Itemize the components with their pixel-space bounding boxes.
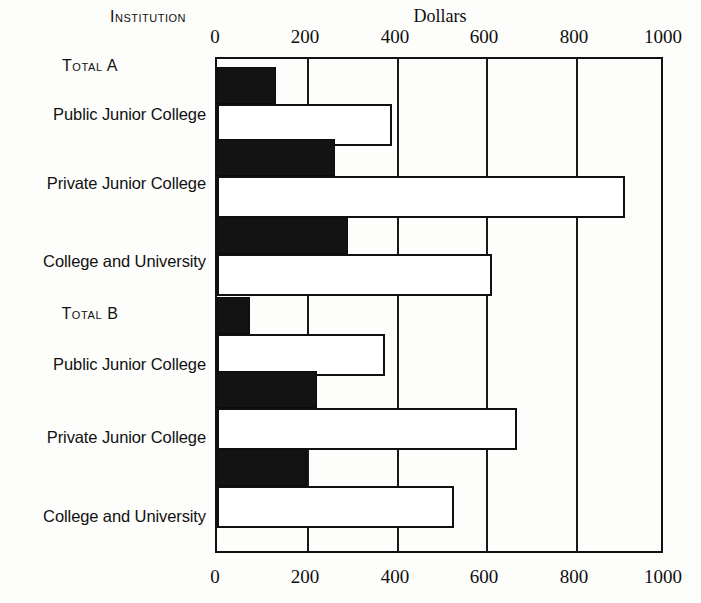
gridline-400 bbox=[397, 59, 399, 551]
bar-dark-4 bbox=[217, 371, 317, 408]
bottom-tick-1000: 1000 bbox=[644, 566, 682, 588]
institution-header-label: Institution bbox=[58, 8, 238, 26]
bar-chart-figure: Institution Dollars 02004006008001000 02… bbox=[0, 0, 701, 603]
category-label-7: College and University bbox=[0, 507, 212, 526]
bottom-tick-800: 800 bbox=[560, 566, 589, 588]
bar-light-3 bbox=[217, 334, 385, 376]
category-label-5: Public Junior College bbox=[0, 355, 212, 374]
group-label-0: Total A bbox=[0, 57, 212, 75]
category-label-2: Private Junior College bbox=[0, 174, 212, 193]
bar-dark-2 bbox=[217, 217, 348, 254]
top-tick-1000: 1000 bbox=[644, 26, 682, 48]
plot-area bbox=[215, 57, 663, 553]
group-label-4: Total B bbox=[0, 305, 212, 323]
dollars-axis-title: Dollars bbox=[380, 6, 500, 27]
bottom-tick-400: 400 bbox=[381, 566, 410, 588]
gridline-800 bbox=[576, 59, 578, 551]
category-label-6: Private Junior College bbox=[0, 428, 212, 447]
category-label-3: College and University bbox=[0, 252, 212, 271]
bar-light-4 bbox=[217, 408, 517, 450]
top-tick-400: 400 bbox=[381, 26, 410, 48]
bar-dark-3 bbox=[217, 297, 250, 334]
gridline-600 bbox=[486, 59, 488, 551]
bar-dark-1 bbox=[217, 139, 335, 176]
top-tick-600: 600 bbox=[470, 26, 499, 48]
bar-light-2 bbox=[217, 254, 492, 296]
top-tick-0: 0 bbox=[210, 26, 220, 48]
top-tick-800: 800 bbox=[560, 26, 589, 48]
bar-dark-0 bbox=[217, 67, 276, 104]
bottom-tick-200: 200 bbox=[291, 566, 320, 588]
bottom-tick-600: 600 bbox=[470, 566, 499, 588]
bottom-tick-0: 0 bbox=[210, 566, 220, 588]
bar-light-1 bbox=[217, 176, 625, 218]
bar-light-5 bbox=[217, 486, 454, 528]
top-tick-200: 200 bbox=[291, 26, 320, 48]
category-label-1: Public Junior College bbox=[0, 105, 212, 124]
bar-dark-5 bbox=[217, 449, 307, 486]
